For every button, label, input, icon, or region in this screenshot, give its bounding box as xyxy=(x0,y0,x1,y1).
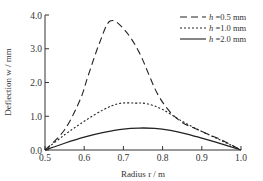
deflection-chart: 0.50.60.70.80.91.00.01.02.03.04.0 h =0.5… xyxy=(0,0,263,181)
y-tick-label: 0.0 xyxy=(30,146,42,156)
y-tick-label: 1.0 xyxy=(30,112,42,122)
y-tick-label: 2.0 xyxy=(30,78,42,88)
legend-label: h =2.0 mm xyxy=(209,34,247,44)
x-tick-label: 1.0 xyxy=(235,153,247,163)
y-axis-label: Deflection w / mm xyxy=(3,48,13,116)
legend: h =0.5 mmh =1.0 mmh =2.0 mm xyxy=(180,12,247,44)
x-tick-label: 0.6 xyxy=(78,153,90,163)
series-line-dotted xyxy=(45,103,241,150)
y-tick-label: 3.0 xyxy=(30,44,42,54)
series-line-solid xyxy=(45,128,241,150)
x-tick-label: 0.7 xyxy=(117,153,129,163)
x-tick-label: 0.9 xyxy=(196,153,208,163)
y-tick-label: 4.0 xyxy=(30,11,42,21)
x-axis-label: Radius r / m xyxy=(121,169,165,179)
legend-label: h =1.0 mm xyxy=(209,23,247,33)
x-tick-label: 0.8 xyxy=(157,153,169,163)
legend-label: h =0.5 mm xyxy=(209,12,247,22)
